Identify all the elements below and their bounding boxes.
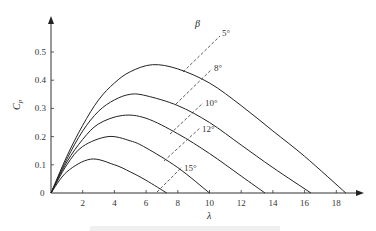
curve-beta-15 bbox=[51, 159, 167, 193]
y-axis-label: Cp bbox=[11, 99, 24, 110]
y-tick-label: 0.3 bbox=[35, 103, 47, 113]
x-tick-label: 6 bbox=[144, 198, 149, 208]
x-tick-label: 16 bbox=[300, 198, 310, 208]
angle-label: 8° bbox=[214, 63, 223, 73]
origin-label: 0 bbox=[40, 188, 45, 198]
angle-label: 12° bbox=[202, 124, 215, 134]
y-axis-arrow-icon bbox=[48, 16, 54, 24]
x-tick-label: 18 bbox=[332, 198, 342, 208]
angle-label: 15° bbox=[184, 163, 197, 173]
x-axis-label: λ bbox=[206, 210, 212, 221]
caption-clipped bbox=[90, 226, 280, 231]
x-tick-label: 10 bbox=[205, 198, 215, 208]
angle-label: 10° bbox=[205, 98, 218, 108]
y-tick-label: 0.4 bbox=[35, 75, 47, 85]
angle-leaders: 5°8°10°12°15° bbox=[157, 28, 231, 192]
curves bbox=[51, 65, 346, 193]
curve-beta-8 bbox=[51, 94, 311, 193]
angle-leader-line bbox=[164, 128, 200, 161]
ticks: 246810121416180.10.20.30.40.5 bbox=[35, 47, 342, 208]
x-tick-label: 14 bbox=[268, 198, 278, 208]
beta-label: β bbox=[194, 18, 200, 29]
x-tick-label: 4 bbox=[112, 198, 117, 208]
x-axis-arrow-icon bbox=[356, 190, 364, 196]
y-tick-label: 0.5 bbox=[35, 47, 47, 57]
x-tick-label: 8 bbox=[176, 198, 181, 208]
curve-beta-5 bbox=[51, 65, 346, 193]
curve-beta-10 bbox=[51, 115, 265, 193]
angle-label: 5° bbox=[222, 28, 231, 38]
cp-lambda-chart: 246810121416180.10.20.30.40.5 5°8°10°12°… bbox=[0, 0, 376, 231]
x-tick-label: 2 bbox=[80, 198, 85, 208]
angle-leader-line bbox=[157, 167, 182, 192]
y-tick-label: 0.1 bbox=[35, 160, 46, 170]
x-tick-label: 12 bbox=[237, 198, 246, 208]
y-axis-label-sub: p bbox=[16, 99, 24, 104]
y-tick-label: 0.2 bbox=[35, 132, 46, 142]
